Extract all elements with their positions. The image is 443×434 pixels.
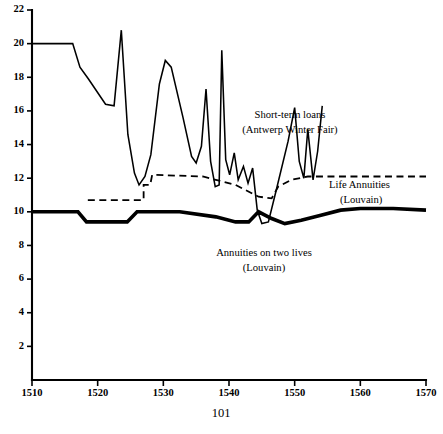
y-tick-label-12: 12	[14, 172, 25, 183]
short-term-loans-label-line2: (Antwerp Winter Fair)	[242, 124, 338, 136]
y-tick-label-10: 10	[14, 205, 25, 216]
x-tick-label-1560: 1560	[350, 387, 371, 398]
page-number: 101	[212, 406, 231, 420]
y-tick-label-22: 22	[14, 3, 25, 14]
life-annuities-label-line2: (Louvain)	[340, 194, 383, 206]
y-tick-label-16: 16	[14, 104, 25, 115]
y-tick-label-6: 6	[19, 272, 24, 283]
y-tick-label-8: 8	[19, 239, 24, 250]
x-tick-label-1570: 1570	[416, 387, 437, 398]
y-tick-label-2: 2	[19, 340, 24, 351]
x-axis-ticks: 1510152015301540155015601570	[22, 380, 437, 398]
x-tick-label-1550: 1550	[284, 387, 305, 398]
y-tick-label-14: 14	[14, 138, 25, 149]
interest-rate-line-chart: 246810121416182022 151015201530154015501…	[0, 0, 443, 434]
x-tick-label-1510: 1510	[22, 387, 43, 398]
y-axis-ticks: 246810121416182022	[14, 3, 33, 350]
annuities-two-lives-label-line2: (Louvain)	[243, 262, 286, 274]
y-tick-label-4: 4	[19, 306, 25, 317]
series-annuities-two-lives	[32, 208, 426, 223]
y-tick-label-18: 18	[14, 71, 25, 82]
short-term-loans-label-line1: Short-term loans	[255, 109, 326, 120]
life-annuities-label-line1: Life Annuities	[329, 179, 390, 190]
x-tick-label-1520: 1520	[87, 387, 108, 398]
y-tick-label-20: 20	[14, 37, 25, 48]
x-tick-label-1540: 1540	[219, 387, 240, 398]
x-tick-label-1530: 1530	[153, 387, 174, 398]
chart-canvas: 246810121416182022 151015201530154015501…	[0, 0, 443, 434]
annuities-two-lives-label-line1: Annuities on two lives	[216, 247, 312, 258]
